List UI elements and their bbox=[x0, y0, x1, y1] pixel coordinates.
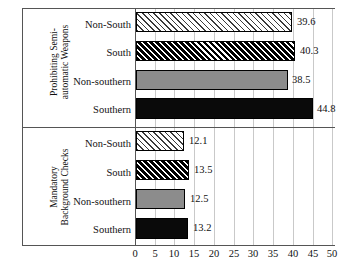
value-label-top-non-southern: 38.5 bbox=[292, 74, 310, 86]
category-label-southern-bottom: Southern bbox=[26, 224, 131, 236]
chart-left-border bbox=[22, 8, 23, 246]
category-label-non-south-bottom: Non-South bbox=[26, 138, 131, 150]
value-label-bottom-southern: 13.2 bbox=[193, 222, 211, 234]
category-label-non-south-top: Non-South bbox=[26, 19, 131, 31]
value-label-bottom-non-southern: 12.5 bbox=[190, 193, 208, 205]
bar-top-non-south bbox=[136, 12, 292, 32]
category-label-non-southern-bottom: Non-southern bbox=[26, 196, 131, 208]
category-label-south-bottom: South bbox=[26, 167, 131, 179]
bar-top-southern bbox=[136, 98, 313, 119]
bar-bottom-non-southern bbox=[136, 189, 185, 209]
bar-bottom-southern bbox=[136, 218, 188, 239]
value-label-bottom-non-south: 12.1 bbox=[189, 135, 207, 147]
bar-top-south bbox=[136, 41, 295, 61]
value-label-top-south: 40.3 bbox=[300, 45, 318, 57]
x-tick-50: 50 bbox=[319, 248, 345, 259]
value-label-bottom-south: 13.5 bbox=[194, 164, 212, 176]
category-label-non-southern-top: Non-southern bbox=[26, 76, 131, 88]
bar-bottom-south bbox=[136, 160, 189, 180]
value-label-top-non-south: 39.6 bbox=[297, 16, 315, 28]
value-label-top-southern: 44.8 bbox=[317, 103, 335, 115]
bar-top-non-southern bbox=[136, 70, 288, 90]
bar-bottom-non-south bbox=[136, 131, 184, 151]
category-label-south-top: South bbox=[26, 47, 131, 59]
bar-chart: Prohibiting Semi- automatic Weapons Non-… bbox=[0, 0, 348, 267]
category-label-southern-top: Southern bbox=[26, 104, 131, 116]
